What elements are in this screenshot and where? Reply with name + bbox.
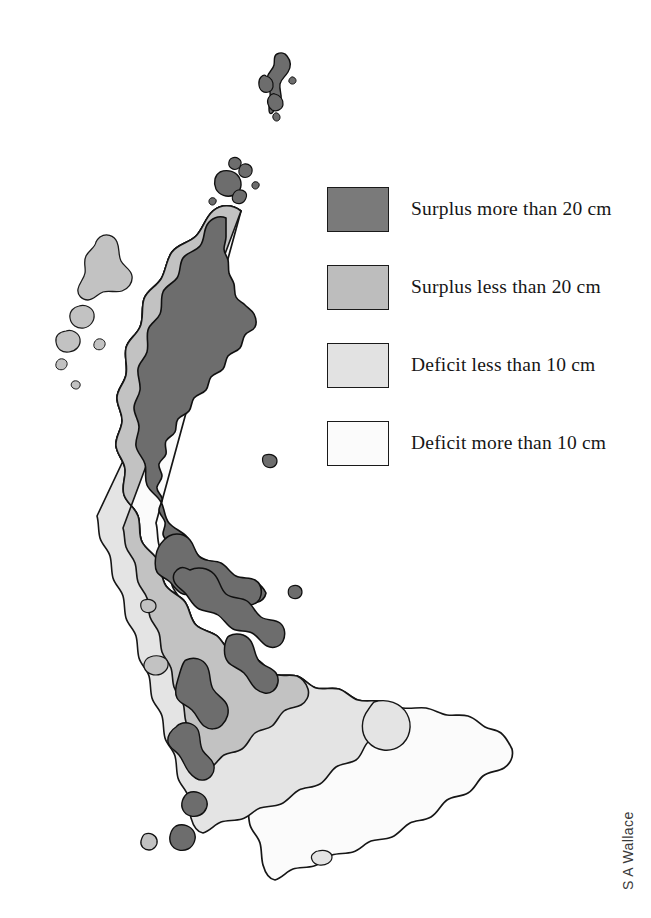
legend-swatch-surplus-more-than-20cm: [327, 187, 389, 232]
legend-swatch-deficit-more-than-10cm: [327, 421, 389, 466]
highland-core-bodmin: [141, 833, 157, 850]
legend-swatch-deficit-less-than-10cm: [327, 343, 389, 388]
highland-core-exmoor: [182, 792, 207, 817]
attribution: S A Wallace: [604, 782, 622, 892]
legend-label-surplus-less-than-20cm: Surplus less than 20 cm: [411, 276, 601, 298]
legend-label-deficit-less-than-10cm: Deficit less than 10 cm: [411, 354, 595, 376]
highland-core-dartmoor: [170, 825, 195, 851]
legend-row-deficit-more-than-10cm: Deficit more than 10 cm: [327, 404, 627, 482]
legend-label-deficit-more-than-10cm: Deficit more than 10 cm: [411, 432, 606, 454]
legend-row-surplus-less-than-20cm: Surplus less than 20 cm: [327, 248, 627, 326]
highland-speck-cheviot: [288, 585, 302, 598]
highland-speck-moray: [263, 454, 277, 467]
legend-row-surplus-more-than-20cm: Surplus more than 20 cm: [327, 170, 627, 248]
legend-label-surplus-more-than-20cm: Surplus more than 20 cm: [411, 198, 612, 220]
water-balance-map-figure: Surplus more than 20 cm Surplus less tha…: [0, 0, 651, 918]
attribution-text: S A Wallace: [620, 811, 636, 890]
map-legend: Surplus more than 20 cm Surplus less tha…: [327, 170, 627, 482]
legend-row-deficit-less-than-10cm: Deficit less than 10 cm: [327, 326, 627, 404]
island-isle-of-man: [141, 599, 156, 612]
legend-swatch-surplus-less-than-20cm: [327, 265, 389, 310]
island-isle-of-wight: [312, 850, 332, 865]
deficit-blob-east-anglia: [362, 701, 410, 751]
island-anglesey: [144, 656, 168, 675]
